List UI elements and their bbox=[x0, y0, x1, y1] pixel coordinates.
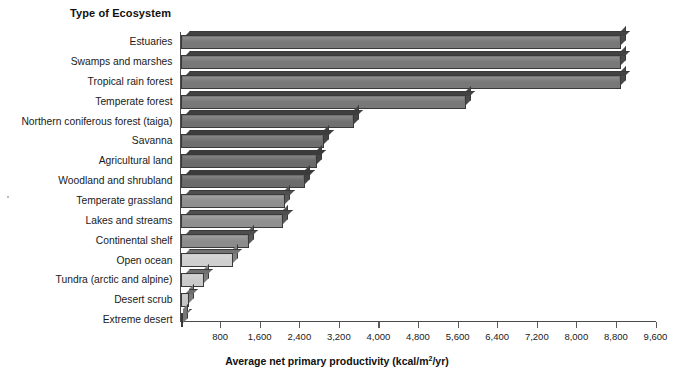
bar bbox=[181, 55, 621, 69]
bar bbox=[181, 194, 286, 208]
category-label: Lakes and streams bbox=[1, 215, 177, 226]
bar-front-face bbox=[181, 55, 621, 69]
plot-area: EstuariesSwamps and marshesTropical rain… bbox=[0, 0, 674, 379]
bar-gloss bbox=[183, 37, 619, 42]
category-label: Swamps and marshes bbox=[1, 56, 177, 67]
x-axis-tick bbox=[378, 322, 379, 328]
bar-front-face bbox=[181, 194, 286, 208]
x-axis-label: Average net primary productivity (kcal/m… bbox=[0, 354, 674, 367]
bar-gloss bbox=[183, 196, 284, 201]
bar-gloss bbox=[183, 275, 202, 280]
category-label: Tropical rain forest bbox=[1, 76, 177, 87]
bar-front-face bbox=[181, 174, 306, 188]
bar bbox=[181, 134, 325, 148]
bar bbox=[181, 95, 466, 109]
x-axis-tick bbox=[497, 322, 498, 328]
bar bbox=[181, 214, 284, 228]
bar-gloss bbox=[183, 176, 304, 181]
ecosystem-productivity-chart: Type of Ecosystem EstuariesSwamps and ma… bbox=[0, 0, 674, 379]
x-axis-tick bbox=[656, 322, 657, 328]
bar bbox=[181, 75, 621, 89]
bar-gloss bbox=[183, 216, 282, 221]
category-label: Woodland and shrubland bbox=[1, 175, 177, 186]
x-axis-tick-label: 9,600 bbox=[633, 331, 674, 342]
x-axis-tick bbox=[220, 322, 221, 328]
category-label: Temperate forest bbox=[1, 96, 177, 107]
bar-front-face bbox=[181, 214, 284, 228]
x-axis-tick bbox=[458, 322, 459, 328]
category-label: Continental shelf bbox=[1, 235, 177, 246]
bar-gloss bbox=[183, 295, 187, 300]
bar-front-face bbox=[181, 35, 621, 49]
bar-front-face bbox=[181, 313, 183, 327]
category-label: Tundra (arctic and alpine) bbox=[1, 274, 177, 285]
category-label: Agricultural land bbox=[1, 155, 177, 166]
bar bbox=[181, 35, 621, 49]
category-label: Northern coniferous forest (taiga) bbox=[1, 116, 177, 127]
x-axis-tick bbox=[537, 322, 538, 328]
x-axis-tick bbox=[418, 322, 419, 328]
bar-gloss bbox=[183, 136, 323, 141]
bar-front-face bbox=[181, 95, 466, 109]
category-label: Temperate grassland bbox=[1, 195, 177, 206]
category-label: Savanna bbox=[1, 135, 177, 146]
bar bbox=[181, 234, 249, 248]
bar-front-face bbox=[181, 75, 621, 89]
x-axis-tick bbox=[616, 322, 617, 328]
category-label: Estuaries bbox=[1, 36, 177, 47]
bar bbox=[181, 174, 306, 188]
category-label: Open ocean bbox=[1, 255, 177, 266]
bar-gloss bbox=[183, 255, 231, 260]
bar-front-face bbox=[181, 234, 249, 248]
bar-gloss bbox=[183, 116, 352, 121]
bar-front-face bbox=[181, 134, 325, 148]
bar-gloss bbox=[183, 57, 619, 62]
bar-gloss bbox=[183, 97, 464, 102]
category-label: Desert scrub bbox=[1, 294, 177, 305]
bar-gloss bbox=[183, 156, 315, 161]
bar-gloss bbox=[183, 77, 619, 82]
x-axis-tick bbox=[260, 322, 261, 328]
category-label: Extreme desert bbox=[1, 314, 177, 325]
x-axis-tick bbox=[299, 322, 300, 328]
x-axis-tick bbox=[339, 322, 340, 328]
bar-front-face bbox=[181, 154, 317, 168]
bar bbox=[181, 313, 183, 327]
x-axis-tick bbox=[576, 322, 577, 328]
bar-gloss bbox=[183, 236, 247, 241]
bar bbox=[181, 154, 317, 168]
